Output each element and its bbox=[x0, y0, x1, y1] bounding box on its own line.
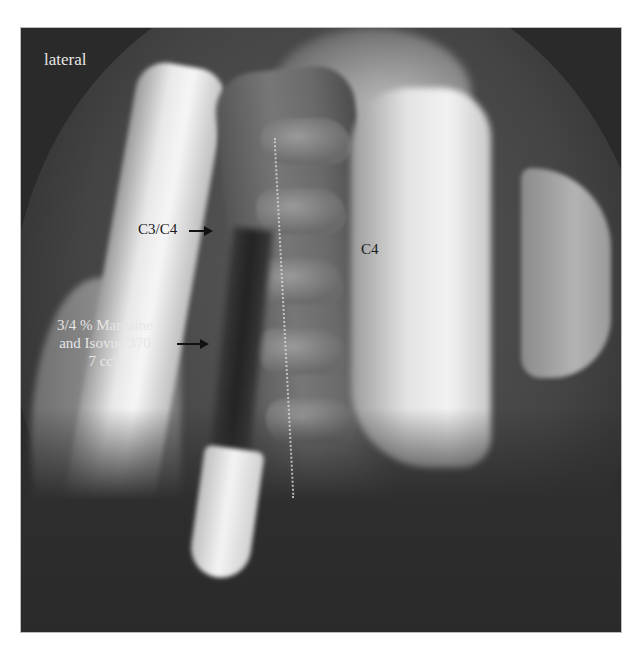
right-arrow-icon bbox=[189, 230, 211, 232]
vertebra-label: C4 bbox=[361, 240, 379, 258]
level-label: C3/C4 bbox=[138, 220, 177, 238]
vertebral-body bbox=[256, 188, 346, 234]
vertebral-body bbox=[256, 328, 346, 374]
view-label: lateral bbox=[44, 51, 86, 69]
fluoroscopy-image: lateral C3/C4 C4 3/4 % Marcaine and Isov… bbox=[21, 28, 621, 632]
lower-dark-region bbox=[21, 408, 621, 632]
injectate-line-3: 7 cc's bbox=[37, 352, 173, 370]
injectate-line-2: and Isovue 370 bbox=[37, 334, 173, 352]
right-arrow-icon bbox=[177, 343, 207, 345]
injectate-line-1: 3/4 % Marcaine bbox=[37, 316, 173, 334]
injectate-label: 3/4 % Marcaine and Isovue 370 7 cc's bbox=[37, 316, 173, 370]
